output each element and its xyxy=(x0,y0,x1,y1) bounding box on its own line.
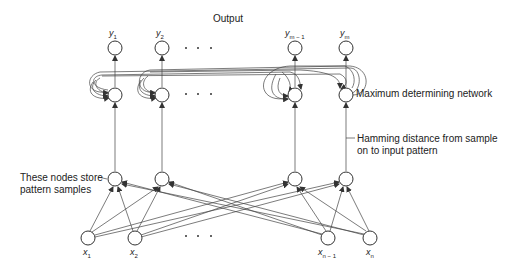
output-label-m: ym xyxy=(340,28,350,40)
store-label-line1: These nodes store xyxy=(20,172,103,183)
output-label-m-1: ym − 1 xyxy=(285,28,305,40)
input-label-n-1: xn − 1 xyxy=(318,247,336,259)
hamming-label-line2: on to input pattern xyxy=(357,145,438,156)
pattern-node-m-1 xyxy=(288,172,302,186)
output-label-1: y1 xyxy=(109,28,117,40)
max-node-m-1 xyxy=(288,88,302,102)
max-network-label: Maximum determining network xyxy=(356,88,492,99)
input-label-2: x2 xyxy=(130,247,138,259)
input-node-n-1 xyxy=(321,231,335,245)
input-node-1 xyxy=(81,231,95,245)
pattern-node-m xyxy=(339,172,353,186)
max-node-1 xyxy=(108,88,122,102)
output-label-2: y2 xyxy=(156,28,164,40)
input-node-2 xyxy=(128,231,142,245)
hamming-label-line1: Hamming distance from sample xyxy=(357,133,498,144)
pattern-node-2 xyxy=(155,172,169,186)
store-label-line2: pattern samples xyxy=(20,184,91,195)
input-node-n xyxy=(363,231,377,245)
max-node-2 xyxy=(155,88,169,102)
pattern-node-1 xyxy=(108,172,122,186)
output-title: Output xyxy=(213,13,243,24)
input-label-n: xn xyxy=(366,247,374,259)
max-node-m xyxy=(339,88,353,102)
output-node-2 xyxy=(155,41,169,55)
output-node-m-1 xyxy=(288,41,302,55)
output-node-1 xyxy=(108,41,122,55)
input-label-1: x1 xyxy=(83,247,91,259)
output-node-m xyxy=(339,41,353,55)
